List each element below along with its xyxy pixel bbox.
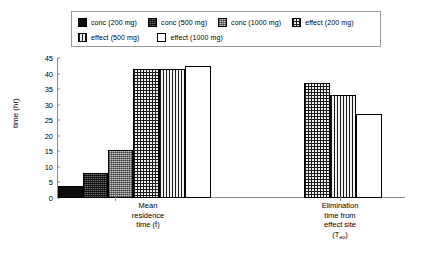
- legend-item-conc-1000: conc (1000 mg): [218, 18, 281, 27]
- cat1-line4: (Teo): [280, 230, 400, 243]
- x-category-label-elimination-time: Elimination time from effect site (Teo): [280, 201, 400, 242]
- bar-effect-200-group-elimination-time: [304, 83, 330, 198]
- legend-swatch-conc-500-icon: [148, 18, 157, 27]
- y-tick-15: 15: [45, 147, 57, 156]
- legend-swatch-conc-200-icon: [78, 18, 87, 27]
- cat1-line2: time from: [280, 211, 400, 221]
- bar-effect-500-group-mean-residence: [159, 69, 185, 198]
- cat1-line1: Elimination: [280, 201, 400, 211]
- y-tick-35: 35: [45, 85, 57, 94]
- legend-swatch-effect-200-icon: [292, 18, 301, 27]
- bar-effect-200-group-mean-residence: [133, 69, 159, 198]
- legend-item-conc-500: conc (500 mg): [148, 18, 207, 27]
- legend-label-conc-200: conc (200 mg): [91, 18, 137, 27]
- legend-swatch-conc-1000-icon: [218, 18, 227, 27]
- legend-item-effect-500: effect (500 mg): [78, 33, 139, 42]
- y-tick-5: 5: [49, 178, 57, 187]
- y-tick-45: 45: [45, 54, 57, 63]
- legend-swatch-effect-500-icon: [78, 33, 87, 42]
- legend-label-effect-200: effect (200 mg): [305, 18, 353, 27]
- y-tick-25: 25: [45, 116, 57, 125]
- bar-conc-200-group-mean-residence: [58, 186, 83, 198]
- legend-item-effect-200: effect (200 mg): [292, 18, 353, 27]
- cat0-line2: residence: [88, 211, 208, 221]
- bar-effect-1000-group-mean-residence: [185, 66, 211, 198]
- y-tick-0: 0: [49, 194, 57, 203]
- legend-row-2: effect (500 mg) effect (1000 mg): [78, 30, 380, 45]
- legend-label-effect-500: effect (500 mg): [91, 33, 139, 42]
- legend-label-effect-1000: effect (1000 mg): [170, 33, 222, 42]
- cat1-line3: effect site: [280, 220, 400, 230]
- y-axis-label: time (hr): [11, 98, 20, 128]
- bar-effect-1000-group-elimination-time: [356, 114, 382, 198]
- bar-effect-500-group-elimination-time: [330, 95, 356, 198]
- cat1-line4-post: ): [345, 230, 348, 239]
- cat0-line3: time (t̄): [88, 220, 208, 230]
- y-tick-10: 10: [45, 162, 57, 171]
- y-tick-20: 20: [45, 131, 57, 140]
- plot-area: 45 40 35 30 25 20 15 10 5 0: [57, 58, 404, 198]
- bar-conc-500-group-mean-residence: [83, 173, 108, 198]
- legend-swatch-effect-1000-icon: [157, 33, 166, 42]
- chart-legend: conc (200 mg) conc (500 mg) conc (1000 m…: [71, 11, 381, 47]
- y-tick-30: 30: [45, 100, 57, 109]
- legend-label-conc-500: conc (500 mg): [161, 18, 207, 27]
- legend-item-effect-1000: effect (1000 mg): [157, 33, 222, 42]
- bar-chart-figure: conc (200 mg) conc (500 mg) conc (1000 m…: [0, 0, 434, 253]
- y-tick-40: 40: [45, 69, 57, 78]
- legend-label-conc-1000: conc (1000 mg): [231, 18, 281, 27]
- legend-item-conc-200: conc (200 mg): [78, 18, 137, 27]
- legend-row-1: conc (200 mg) conc (500 mg) conc (1000 m…: [78, 15, 380, 30]
- cat0-line1: Mean: [88, 201, 208, 211]
- x-category-label-mean-residence: Mean residence time (t̄): [88, 201, 208, 230]
- bar-conc-1000-group-mean-residence: [108, 150, 133, 198]
